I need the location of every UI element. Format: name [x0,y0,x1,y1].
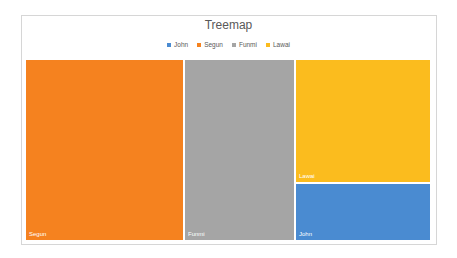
legend-item-lawai: Lawai [266,41,290,48]
tile-lawai[interactable]: Lawai [296,60,430,182]
legend-swatch-funmi [232,43,236,47]
chart-title: Treemap [0,18,457,32]
legend-item-funmi: Funmi [232,41,257,48]
legend-swatch-john [167,43,171,47]
tile-label-john: John [299,231,312,237]
tile-john[interactable]: John [296,184,430,240]
chart-legend: John Segun Funmi Lawai [0,41,457,48]
legend-swatch-lawai [266,43,270,47]
legend-item-john: John [167,41,188,48]
legend-label-john: John [174,41,188,48]
tile-funmi[interactable]: Funmi [185,60,294,240]
tile-segun[interactable]: Segun [26,60,183,240]
legend-item-segun: Segun [197,41,223,48]
legend-label-lawai: Lawai [273,41,290,48]
tile-label-funmi: Funmi [188,231,205,237]
legend-label-funmi: Funmi [239,41,257,48]
legend-label-segun: Segun [204,41,223,48]
tile-label-segun: Segun [29,231,46,237]
tile-label-lawai: Lawai [299,173,315,179]
legend-swatch-segun [197,43,201,47]
